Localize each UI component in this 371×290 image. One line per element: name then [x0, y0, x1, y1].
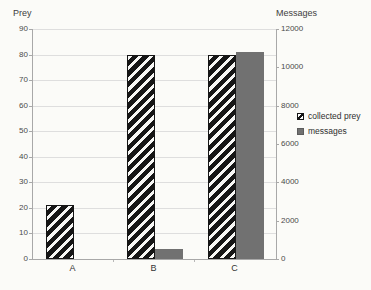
y-axis-tick-label-right: 0 — [281, 255, 285, 263]
y-axis-tick-label-left: 20 — [8, 204, 28, 212]
right-axis-title: Messages — [276, 8, 317, 18]
legend-label-messages: messages — [308, 126, 347, 136]
collected-prey-swatch-icon — [297, 113, 304, 120]
bar-messages-B — [155, 249, 183, 259]
bar-collected-prey-C — [208, 55, 236, 259]
bar-collected-prey-B — [127, 55, 155, 259]
y-axis-tick-label-left: 60 — [8, 102, 28, 110]
gridline — [33, 29, 276, 30]
legend-label-collected-prey: collected prey — [308, 111, 360, 121]
bar-messages-C — [236, 52, 264, 259]
y-axis-tick-label-left: 0 — [8, 255, 28, 263]
x-axis-category-label: A — [32, 263, 113, 273]
x-axis-tick-mark — [113, 260, 114, 262]
left-axis-title: Prey — [13, 8, 32, 18]
y-axis-tick-label-left: 30 — [8, 178, 28, 186]
messages-swatch-icon — [297, 128, 304, 135]
y-axis-tick-label-right: 2000 — [281, 217, 299, 225]
y-axis-tick-label-left: 90 — [8, 25, 28, 33]
y-axis-tick-label-left: 50 — [8, 127, 28, 135]
bar-collected-prey-A — [46, 205, 74, 259]
y-axis-tick-label-left: 10 — [8, 229, 28, 237]
y-axis-tick-label-right: 8000 — [281, 102, 299, 110]
y-axis-tick-label-left: 70 — [8, 76, 28, 84]
y-axis-tick-label-right: 6000 — [281, 140, 299, 148]
y-axis-tick-label-right: 4000 — [281, 178, 299, 186]
legend-item-messages: messages — [297, 126, 360, 136]
y-axis-tick-label-left: 80 — [8, 51, 28, 59]
y-axis-tick-label-right: 12000 — [281, 25, 303, 33]
plot-area — [32, 29, 277, 260]
y-axis-tick-label-right: 10000 — [281, 63, 303, 71]
y-axis-tick-label-left: 40 — [8, 153, 28, 161]
legend: collected prey messages — [297, 111, 360, 141]
bar-chart: Prey Messages 0102030405060708090 020004… — [0, 0, 371, 290]
x-axis-category-label: C — [194, 263, 275, 273]
x-axis-tick-mark — [194, 260, 195, 262]
x-axis-category-label: B — [113, 263, 194, 273]
legend-item-collected-prey: collected prey — [297, 111, 360, 121]
